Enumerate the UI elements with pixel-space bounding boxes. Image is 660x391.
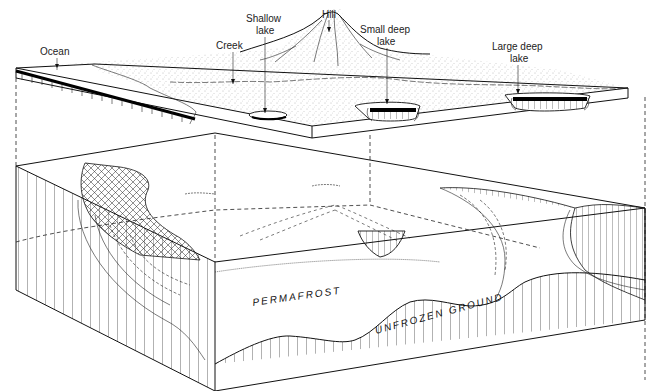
ocean-label: Ocean	[40, 46, 69, 57]
large-deep-lake-label-line1: Large deep	[492, 41, 543, 52]
surface-slab	[16, 8, 628, 138]
large-deep-lake	[505, 93, 590, 111]
permafrost-label: PERMAFROST	[252, 285, 342, 308]
shallow-lake-label-line2: lake	[256, 25, 275, 36]
creek-label: Creek	[216, 40, 244, 51]
shallow-lake-label-line1: Shallow	[246, 13, 282, 24]
permafrost-block-diagram: Ocean Creek Shallow lake Hill Small deep…	[0, 0, 660, 391]
small-deep-lake-talik	[358, 231, 405, 257]
large-deep-lake-label-line2: lake	[510, 53, 529, 64]
small-deep-lake-label-line1: Small deep	[360, 24, 410, 35]
small-deep-lake-label-line2: lake	[377, 36, 396, 47]
subsurface-block: PERMAFROST UNFROZEN GROUND	[16, 133, 645, 391]
hill-label: Hill	[322, 9, 336, 20]
